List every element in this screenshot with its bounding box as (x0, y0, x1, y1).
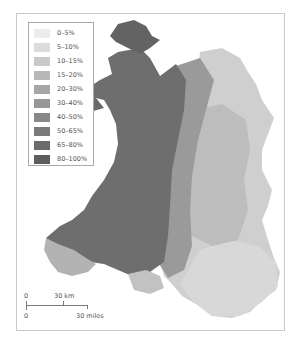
legend-item: 30–40% (34, 98, 83, 108)
scale-line (26, 305, 88, 306)
legend-label: 10–15% (57, 57, 83, 65)
legend-swatch (34, 85, 50, 94)
legend-swatch (34, 113, 50, 122)
legend-label: 80–100% (57, 155, 87, 163)
legend-item: 0–5% (34, 28, 75, 38)
legend-label: 65–80% (57, 141, 83, 149)
scale-tick-km (63, 301, 64, 305)
legend-item: 10–15% (34, 56, 83, 66)
scale-km-zero: 0 (24, 292, 28, 300)
map-region-gower (128, 270, 164, 294)
legend-swatch (34, 57, 50, 66)
legend-item: 65–80% (34, 140, 83, 150)
legend-item: 15–20% (34, 70, 83, 80)
legend-label: 50–65% (57, 127, 83, 135)
legend-item: 40–50% (34, 112, 83, 122)
scale-miles-label: 30 miles (76, 312, 104, 320)
legend-label: 15–20% (57, 71, 83, 79)
legend-item: 20–30% (34, 84, 83, 94)
legend-item: 50–65% (34, 126, 83, 136)
legend-item: 5–10% (34, 42, 79, 52)
scale-km-label: 30 km (54, 292, 74, 300)
legend-label: 30–40% (57, 99, 83, 107)
legend-swatch (34, 127, 50, 136)
scale-miles-zero: 0 (24, 312, 28, 320)
legend-swatch (34, 99, 50, 108)
legend-label: 0–5% (57, 29, 75, 37)
legend-item: 80–100% (34, 154, 87, 164)
map-region-anglesey (110, 20, 160, 54)
scale-tick-zero (26, 301, 27, 310)
legend-swatch (34, 155, 50, 164)
scale-bar: 0 30 km 0 30 miles (24, 292, 114, 328)
legend-swatch (34, 141, 50, 150)
legend-label: 40–50% (57, 113, 83, 121)
legend-swatch (34, 71, 50, 80)
scale-tick-miles (87, 305, 88, 309)
legend-label: 5–10% (57, 43, 79, 51)
map-legend: 0–5% 5–10% 10–15% 15–20% 20–30% 30–40% 4… (28, 22, 94, 166)
legend-label: 20–30% (57, 85, 83, 93)
legend-swatch (34, 29, 50, 38)
legend-swatch (34, 43, 50, 52)
